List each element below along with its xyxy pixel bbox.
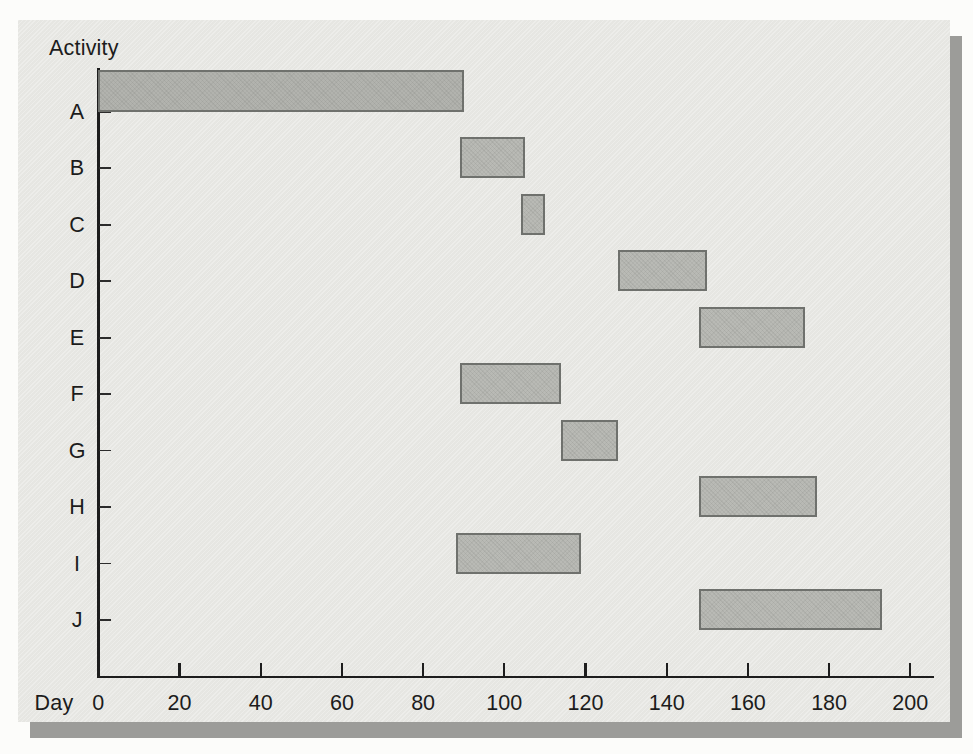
gantt-bar-J (699, 589, 882, 630)
x-axis-tick-label-180: 180 (799, 691, 859, 716)
x-axis-tick-80 (422, 663, 424, 676)
x-axis-tick-20 (178, 663, 180, 676)
y-axis-tick-B (99, 167, 111, 169)
x-axis-tick-120 (584, 663, 586, 676)
x-axis-tick-160 (747, 663, 749, 676)
gantt-bar-G (561, 420, 618, 461)
x-axis-tick-label-100: 100 (474, 691, 534, 716)
x-axis-tick-100 (503, 663, 505, 676)
page-background: Activity ABCDEFGHIJ 02040608010012014016… (0, 0, 973, 754)
activity-label-H: H (60, 494, 94, 520)
y-axis-title: Activity (49, 36, 119, 61)
x-axis-tick-label-140: 140 (637, 691, 697, 716)
y-axis-tick-I (99, 563, 111, 565)
activity-label-B: B (60, 155, 94, 181)
activity-label-C: C (60, 212, 94, 238)
y-axis-tick-C (99, 224, 111, 226)
activity-label-E: E (60, 325, 94, 351)
gantt-bar-I (456, 533, 582, 574)
activity-label-F: F (60, 381, 94, 407)
activity-label-G: G (60, 438, 94, 464)
y-axis-tick-E (99, 337, 111, 339)
gantt-bar-H (699, 476, 817, 517)
activity-label-I: I (60, 551, 94, 577)
x-axis-tick-label-120: 120 (556, 691, 616, 716)
y-axis-tick-H (99, 506, 111, 508)
x-axis-tick-180 (828, 663, 830, 676)
x-axis-tick-label-60: 60 (312, 691, 372, 716)
gantt-bar-A (98, 70, 463, 112)
x-axis-tick-60 (341, 663, 343, 676)
y-axis-line (97, 68, 100, 678)
x-axis-tick-200 (909, 663, 911, 676)
x-axis-tick-label-200: 200 (880, 691, 940, 716)
activity-label-D: D (60, 268, 94, 294)
x-axis-tick-140 (666, 663, 668, 676)
x-axis-title: Day (28, 691, 80, 716)
gantt-bar-F (460, 363, 562, 404)
gantt-bar-E (699, 307, 805, 348)
gantt-bar-C (521, 194, 545, 235)
gantt-bar-D (618, 250, 707, 291)
x-axis-tick-label-80: 80 (393, 691, 453, 716)
y-axis-tick-J (99, 619, 111, 621)
x-axis-tick-40 (260, 663, 262, 676)
activity-label-A: A (60, 99, 94, 125)
x-axis-tick-label-160: 160 (718, 691, 778, 716)
gantt-bar-B (460, 137, 525, 178)
y-axis-tick-G (99, 450, 111, 452)
y-axis-tick-F (99, 393, 111, 395)
x-axis-tick-label-20: 20 (150, 691, 210, 716)
x-axis-line (97, 676, 934, 679)
activity-label-J: J (60, 607, 94, 633)
y-axis-tick-D (99, 280, 111, 282)
x-axis-tick-label-40: 40 (231, 691, 291, 716)
